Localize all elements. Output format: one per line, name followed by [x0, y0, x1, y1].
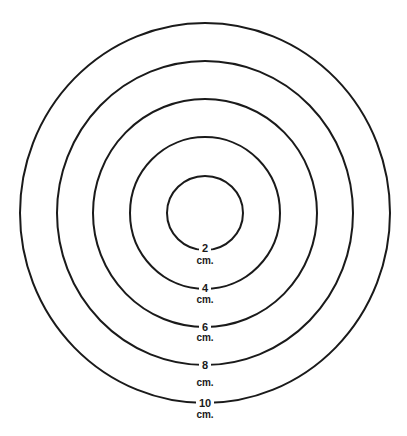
ring-10cm: [20, 23, 390, 403]
ring-unit: cm.: [196, 332, 213, 343]
concentric-circles-diagram: 2cm.4cm.6cm.8cm.10cm.: [0, 0, 407, 436]
ring-unit: cm.: [196, 255, 213, 266]
rings-layer: [20, 23, 390, 403]
ring-value: 10: [199, 397, 211, 409]
ring-value: 2: [202, 242, 208, 254]
ring-value: 8: [202, 359, 208, 371]
ring-8cm: [57, 61, 353, 365]
ring-4cm: [130, 137, 280, 289]
ring-unit: cm.: [196, 409, 213, 420]
ring-value: 4: [202, 282, 209, 294]
labels-layer: 2cm.4cm.6cm.8cm.10cm.: [196, 242, 214, 420]
ring-unit: cm.: [196, 294, 213, 305]
ring-2cm: [167, 176, 243, 250]
ring-unit: cm.: [196, 377, 213, 388]
